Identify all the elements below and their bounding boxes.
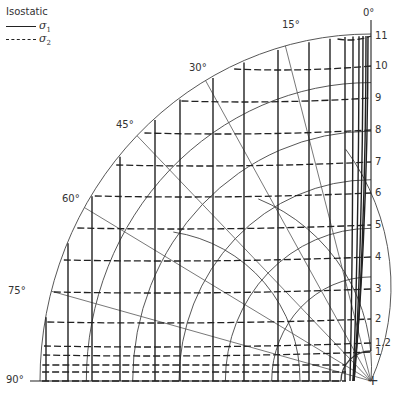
scale-label: 9 xyxy=(375,93,381,103)
sigma2-line xyxy=(44,343,371,347)
scale-label: 2 xyxy=(375,314,381,324)
scale-label: 5 xyxy=(375,220,381,230)
center-marker: + xyxy=(367,373,379,387)
scale-label: 10 xyxy=(375,61,388,71)
radial-angle-lines xyxy=(51,46,371,381)
angle-label: 30° xyxy=(189,63,207,73)
angle-label: 15° xyxy=(282,20,300,30)
sigma2-line xyxy=(64,257,371,261)
legend-item-sigma2: σ2 xyxy=(6,33,51,46)
angle-label: 90° xyxy=(6,375,24,385)
scale-label: 7 xyxy=(375,157,381,167)
solid-line-icon xyxy=(6,26,36,27)
angle-label: 45° xyxy=(116,120,134,130)
scale-label: 3 xyxy=(375,284,381,294)
sigma1-line xyxy=(350,37,353,381)
dashed-line-icon xyxy=(6,39,36,40)
scale-label: 11 xyxy=(375,31,388,41)
angle-label: 60° xyxy=(62,194,80,204)
isostatic-diagram xyxy=(0,0,400,400)
scale-label: 8 xyxy=(375,125,381,135)
legend: Isostatic σ1 σ2 xyxy=(6,6,51,46)
legend-title: Isostatic xyxy=(6,6,51,17)
angle-label: 0° xyxy=(363,8,374,18)
legend-symbol: σ2 xyxy=(39,32,51,47)
angle-label: 75° xyxy=(8,286,26,296)
sigma2-line xyxy=(234,66,371,70)
scale-label: 1 xyxy=(375,347,381,357)
scale-label: 6 xyxy=(375,188,381,198)
radial-line xyxy=(51,291,371,381)
sigma2-line xyxy=(47,319,371,323)
scale-label: 4 xyxy=(375,252,381,262)
